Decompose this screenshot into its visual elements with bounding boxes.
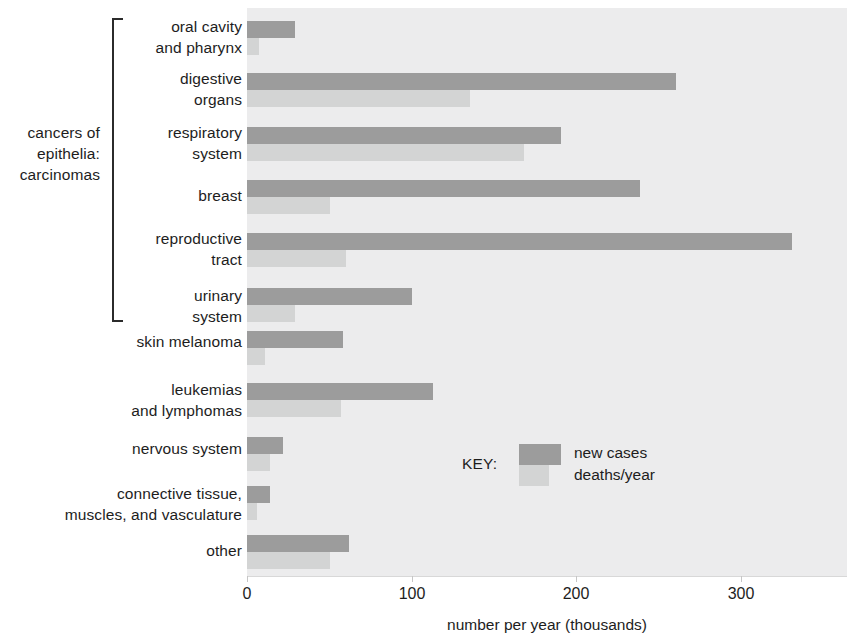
row-label-line: tract	[17, 249, 242, 270]
x-tick-label: 100	[372, 585, 452, 603]
row-label: skin melanoma	[17, 331, 242, 352]
bar-new-cases	[247, 331, 343, 348]
bar-deaths	[247, 197, 330, 214]
legend-label-deaths: deaths/year	[574, 464, 655, 486]
row-bars	[247, 486, 270, 520]
bar-deaths	[247, 144, 524, 161]
row-label-line: nervous system	[17, 438, 242, 459]
row-label: respiratorysystem	[17, 122, 242, 164]
row-bars	[247, 233, 792, 267]
row-label-line: urinary	[17, 285, 242, 306]
row-label-line: system	[17, 143, 242, 164]
bar-deaths	[247, 454, 270, 471]
x-tick-mark	[247, 576, 248, 582]
row-bars	[247, 127, 561, 161]
bar-new-cases	[247, 21, 295, 38]
bar-new-cases	[247, 233, 792, 250]
row-label-line: muscles, and vasculature	[17, 504, 242, 525]
row-label-line: other	[17, 540, 242, 561]
row-bars	[247, 535, 349, 569]
bar-deaths	[247, 38, 259, 55]
legend-swatch-new-cases	[519, 444, 561, 465]
bar-new-cases	[247, 288, 412, 305]
x-tick-label: 0	[207, 585, 287, 603]
x-axis: 0100200300 number per year (thousands)	[0, 576, 847, 640]
bar-new-cases	[247, 127, 561, 144]
x-tick-mark	[741, 576, 742, 582]
row-bars	[247, 383, 433, 417]
bar-deaths	[247, 503, 257, 520]
x-axis-title: number per year (thousands)	[247, 616, 847, 634]
row-label-line: skin melanoma	[17, 331, 242, 352]
row-bars	[247, 331, 343, 365]
bar-deaths	[247, 348, 265, 365]
bar-new-cases	[247, 383, 433, 400]
row-label: reproductivetract	[17, 228, 242, 270]
x-tick-mark	[576, 576, 577, 582]
row-label-line: oral cavity	[17, 16, 242, 37]
row-bars	[247, 73, 676, 107]
bar-deaths	[247, 250, 346, 267]
bar-chart: cancers of epithelia: carcinomas oral ca…	[0, 0, 847, 640]
bar-new-cases	[247, 535, 349, 552]
x-axis-line	[247, 576, 847, 577]
x-tick-label: 300	[701, 585, 781, 603]
bar-new-cases	[247, 73, 676, 90]
row-bars	[247, 288, 412, 322]
row-label-line: and lymphomas	[17, 400, 242, 421]
legend-swatches	[519, 444, 561, 486]
bar-new-cases	[247, 486, 270, 503]
row-label-line: respiratory	[17, 122, 242, 143]
chart-rows: oral cavityand pharynxdigestiveorgansres…	[0, 0, 847, 640]
row-label: other	[17, 540, 242, 561]
bar-deaths	[247, 552, 330, 569]
row-label-line: and pharynx	[17, 37, 242, 58]
bar-deaths	[247, 400, 341, 417]
bar-new-cases	[247, 437, 283, 454]
bar-new-cases	[247, 180, 640, 197]
bar-deaths	[247, 90, 470, 107]
row-label: leukemiasand lymphomas	[17, 379, 242, 421]
row-label: connective tissue,muscles, and vasculatu…	[17, 483, 242, 525]
row-label-line: system	[17, 306, 242, 327]
x-tick-mark	[412, 576, 413, 582]
row-bars	[247, 21, 295, 55]
row-bars	[247, 180, 640, 214]
row-bars	[247, 437, 283, 471]
row-label-line: digestive	[17, 68, 242, 89]
row-label: oral cavityand pharynx	[17, 16, 242, 58]
row-label-line: breast	[17, 185, 242, 206]
legend-label-new-cases: new cases	[574, 442, 655, 464]
row-label-line: connective tissue,	[17, 483, 242, 504]
row-label: digestiveorgans	[17, 68, 242, 110]
x-tick-label: 200	[536, 585, 616, 603]
row-label-line: leukemias	[17, 379, 242, 400]
row-label-line: reproductive	[17, 228, 242, 249]
row-label: nervous system	[17, 438, 242, 459]
row-label: urinarysystem	[17, 285, 242, 327]
bar-deaths	[247, 305, 295, 322]
legend-title: KEY:	[462, 455, 497, 473]
row-label-line: organs	[17, 89, 242, 110]
legend-swatch-deaths	[519, 465, 549, 486]
legend-labels: new cases deaths/year	[574, 442, 655, 486]
row-label: breast	[17, 185, 242, 206]
